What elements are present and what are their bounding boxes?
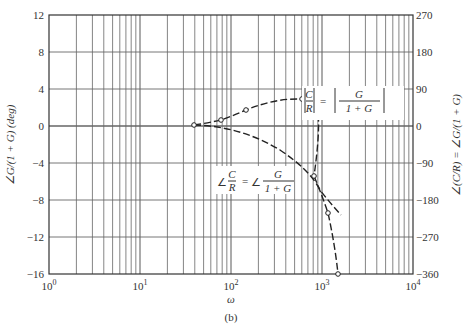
svg-text:∠: ∠ [217,176,227,188]
svg-text:103: 103 [315,278,330,292]
x-axis-label: ω [227,293,235,305]
svg-text:−180: −180 [416,194,439,206]
svg-text:G: G [355,88,363,100]
svg-text:−16: −16 [27,268,45,280]
svg-text:101: 101 [133,278,148,292]
svg-text:8: 8 [39,46,45,58]
svg-text:−12: −12 [27,231,44,243]
chart-svg: 12 8 4 0 −4 −8 −12 −16 270 180 90 0 −90 … [0,0,472,327]
phase-annotation: ∠ C R = ∠ G 1 + G [214,166,294,194]
svg-text:90: 90 [416,83,428,95]
svg-text:−270: −270 [416,231,439,243]
svg-text:−4: −4 [32,157,44,169]
svg-text:R: R [305,102,313,114]
svg-text:1 + G: 1 + G [265,182,291,194]
left-ticks: 12 8 4 0 −4 −8 −12 −16 [27,9,45,280]
svg-text:180: 180 [416,46,433,58]
right-ticks: 270 180 90 0 −90 −180 −270 −360 [416,9,439,280]
x-ticks: 100 101 102 103 104 [42,278,421,292]
figure-caption: (b) [225,311,238,324]
left-axis-label: ∠G/(1 + G) (deg) [4,104,17,185]
svg-text:=: = [242,175,248,187]
svg-text:=: = [320,95,326,107]
svg-text:0: 0 [416,120,422,132]
right-axis-label: ∠(C/R) = ∠G/(1 + G) [450,94,463,196]
svg-text:102: 102 [224,278,239,292]
svg-text:∠: ∠ [251,176,261,188]
svg-text:G: G [274,168,282,180]
bode-chart: 12 8 4 0 −4 −8 −12 −16 270 180 90 0 −90 … [0,0,472,327]
svg-text:0: 0 [39,120,45,132]
svg-text:C: C [228,168,236,180]
magnitude-annotation: C R = G 1 + G [302,86,404,120]
svg-text:1 + G: 1 + G [346,102,372,114]
svg-text:4: 4 [39,83,45,95]
svg-text:C: C [305,88,313,100]
grid [49,15,413,274]
svg-text:270: 270 [416,9,433,21]
svg-text:12: 12 [33,9,44,21]
svg-text:−90: −90 [416,157,434,169]
svg-text:R: R [228,181,236,193]
svg-text:−8: −8 [32,194,44,206]
svg-text:104: 104 [406,278,421,292]
svg-text:100: 100 [42,278,57,292]
